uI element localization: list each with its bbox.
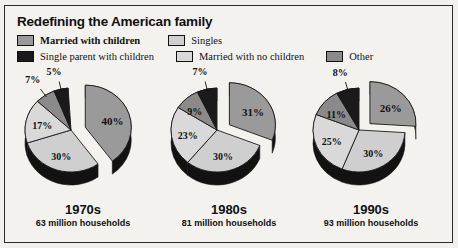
pie-svg [153,68,305,196]
pie-slice-label: 30% [51,151,71,162]
legend-item: Married with no children [176,51,304,62]
caption-1990s: 1990s 93 million households [295,202,447,228]
legend-label: Singles [191,35,222,46]
households-label: 81 million households [153,218,305,228]
legend-label: Married with no children [199,51,304,62]
households-label: 63 million households [7,218,159,228]
pie-slice-label: 5% [47,66,62,77]
legend-item: Single parent with children [17,51,154,62]
pie-slice-label: 7% [193,66,208,77]
legend-swatch-icon [326,51,343,62]
infographic-frame: Redefining the American family Married w… [0,0,458,248]
chart-captions: 1970s 63 million households 1980s 81 mil… [5,202,454,242]
pie-slice-label: 8% [333,67,348,78]
pie-slice-label: 25% [322,136,342,147]
caption-1970s: 1970s 63 million households [7,202,159,228]
infographic-panel: Redefining the American family Married w… [4,5,453,243]
caption-1980s: 1980s 81 million households [153,202,305,228]
pie-chart-1990s: 26%30%25%11%8% [295,68,447,196]
legend-row-top: Married with childrenSingles [17,35,222,46]
legend-item: Other [326,51,373,62]
households-label: 93 million households [295,218,447,228]
decade-label: 1980s [153,202,305,217]
pie-slice-label: 31% [242,106,264,118]
legend-swatch-icon [17,35,34,46]
pie-slice-label: 11% [327,109,346,120]
pie-slice-label: 9% [187,106,202,117]
legend-swatch-icon [168,35,185,46]
pie-slice-label: 30% [213,151,233,162]
legend-swatch-icon [176,51,193,62]
pie-slice-label: 30% [363,148,383,159]
page-title: Redefining the American family [17,14,212,29]
legend-label: Married with children [40,35,140,46]
legend-item: Singles [168,35,222,46]
pie-slice-label: 17% [32,120,52,131]
pie-chart-1980s: 31%30%23%9%7% [153,68,305,196]
pie-svg [295,68,447,196]
pie-svg [7,68,159,196]
legend-row-bottom: Single parent with childrenMarried with … [17,51,373,62]
legend-swatch-icon [17,51,34,62]
pie-slice-label: 26% [380,102,402,114]
decade-label: 1970s [7,202,159,217]
legend-label: Other [349,51,373,62]
legend-label: Single parent with children [40,51,154,62]
pie-chart-1970s: 40%30%17%7%5% [7,68,159,196]
pie-slice-label: 7% [25,74,40,85]
pie-slice-label: 40% [101,115,123,127]
pie-slice-label: 23% [178,130,198,141]
pie-chart-group: 40%30%17%7%5% 31%30%23%9%7% 26%30%25%11%… [5,68,454,196]
legend-item: Married with children [17,35,140,46]
decade-label: 1990s [295,202,447,217]
